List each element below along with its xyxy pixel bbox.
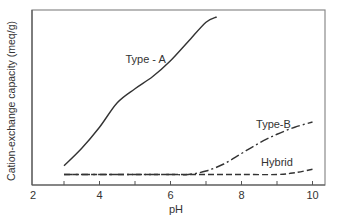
series-label: Type - A <box>125 53 166 65</box>
y-axis-label: Cation-exchange capacity (meq/g) <box>5 21 17 181</box>
x-tick-label: 10 <box>306 189 318 201</box>
chart-container: 246810 Type - AType-BHybrid pH Cation-ex… <box>0 0 339 221</box>
series-line-type-a <box>64 17 217 166</box>
series-label: Type-B <box>256 118 291 130</box>
x-axis-ticks: 246810 <box>30 181 319 201</box>
line-chart: 246810 Type - AType-BHybrid pH Cation-ex… <box>0 0 339 221</box>
series-label: Hybrid <box>261 156 293 168</box>
x-tick-label: 2 <box>30 189 36 201</box>
series-layer <box>64 17 313 175</box>
annotations-layer: Type - AType-BHybrid <box>125 53 292 168</box>
x-tick-label: 4 <box>96 189 102 201</box>
x-axis-label: pH <box>169 203 183 215</box>
x-tick-label: 8 <box>238 189 244 201</box>
x-tick-label: 6 <box>167 189 173 201</box>
